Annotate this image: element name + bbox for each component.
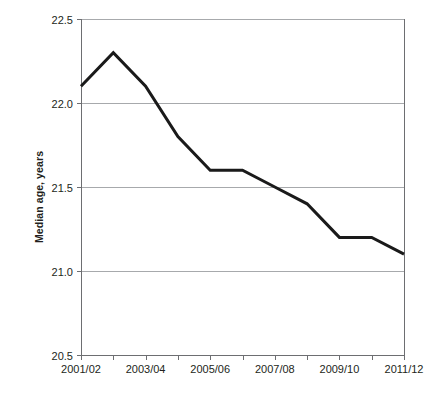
x-tick-label: 2011/12 (385, 363, 424, 375)
plot-area: 22.522.021.521.020.5 2001/022003/042005/… (0, 0, 431, 394)
y-tick-label: 21.5 (52, 182, 73, 194)
x-tick-label: 2001/02 (61, 363, 101, 375)
y-tick-label: 22.0 (52, 98, 73, 110)
x-axis-tick-labels: 2001/022003/042005/062007/082009/102011/… (61, 363, 423, 375)
y-tick-label: 22.5 (52, 14, 73, 26)
tick-marks (77, 20, 405, 361)
x-tick-label: 2003/04 (126, 363, 166, 375)
series-line (81, 53, 404, 255)
y-axis-tick-labels: 22.522.021.521.020.5 (52, 14, 73, 362)
data-series (81, 53, 404, 255)
x-tick-label: 2007/08 (255, 363, 295, 375)
line-chart: Median age, years 22.522.021.521.020.5 2… (0, 0, 431, 394)
y-tick-label: 20.5 (52, 350, 73, 362)
x-tick-label: 2005/06 (190, 363, 230, 375)
y-tick-label: 21.0 (52, 266, 73, 278)
x-tick-label: 2009/10 (320, 363, 360, 375)
